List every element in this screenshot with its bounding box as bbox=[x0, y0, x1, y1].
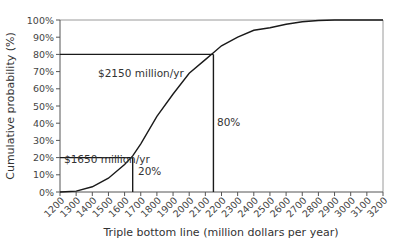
y-axis: 0%10%20%30%40%50%60%70%80%90%100% bbox=[27, 15, 60, 198]
x-axis-title: Triple bottom line (million dollars per … bbox=[103, 226, 339, 239]
y-tick-label: 10% bbox=[33, 169, 54, 180]
y-tick-label: 20% bbox=[33, 152, 54, 163]
annotation-2150: $2150 million/yr bbox=[98, 67, 184, 79]
y-tick-label: 30% bbox=[33, 135, 54, 146]
y-tick-label: 50% bbox=[33, 101, 54, 112]
y-tick-label: 100% bbox=[27, 15, 54, 26]
y-tick-label: 60% bbox=[33, 83, 54, 94]
annotation-1650: $1650 million/yr bbox=[64, 153, 150, 165]
y-tick-label: 70% bbox=[33, 66, 54, 77]
annotation-80-percent: 80% bbox=[217, 116, 240, 128]
y-tick-label: 90% bbox=[33, 32, 54, 43]
y-tick-label: 80% bbox=[33, 49, 54, 60]
x-axis: 1200130014001500160017001800190020002100… bbox=[42, 192, 390, 220]
cumulative-probability-chart: 0%10%20%30%40%50%60%70%80%90%100% 120013… bbox=[0, 0, 399, 248]
chart-canvas: 0%10%20%30%40%50%60%70%80%90%100% 120013… bbox=[0, 0, 399, 248]
cdf-curve bbox=[60, 20, 383, 192]
y-axis-title: Cumulative probability (%) bbox=[4, 32, 17, 180]
annotation-20-percent: 20% bbox=[138, 165, 161, 177]
y-tick-label: 0% bbox=[39, 187, 54, 198]
y-tick-label: 40% bbox=[33, 118, 54, 129]
